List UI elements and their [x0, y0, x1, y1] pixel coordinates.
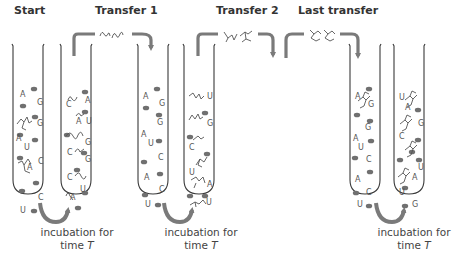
nucleotide-letter: U: [357, 200, 363, 209]
caption-line-1: incubation for: [359, 226, 456, 239]
nucleotide-letter: G: [368, 100, 374, 109]
nucleotide-letter: C: [67, 173, 73, 182]
incubation-arrow-3: [376, 203, 404, 222]
nucleotide-letter: G: [412, 200, 418, 209]
caption-time-variable: T: [211, 239, 217, 251]
transfer-1-molecules: [100, 32, 123, 38]
caption-line-2: time T: [359, 239, 456, 252]
nucleotide-letter: A: [70, 193, 76, 202]
nucleotide-letter: U: [399, 188, 405, 197]
nucleotide-letter: G: [85, 138, 91, 147]
nucleotide-letter: G: [37, 119, 43, 128]
nucleotide-letter: C: [189, 143, 195, 152]
nucleotide-letter: U: [80, 185, 86, 194]
nucleotide-letter: C: [366, 155, 372, 164]
nucleotide-letter: A: [353, 134, 359, 143]
last-transfer-arrow: [286, 34, 358, 58]
nucleotide-letter: C: [67, 148, 73, 157]
nucleotide-letter: G: [37, 98, 43, 107]
incubation-caption-2: incubation for time T: [146, 226, 256, 252]
incubation-caption-3: incubation for time T: [359, 226, 456, 252]
test-tube-5: [349, 44, 381, 194]
nucleotide-letter: A: [143, 92, 149, 101]
caption-line-1: incubation for: [146, 226, 256, 239]
nucleotide-letter: C: [366, 188, 372, 197]
caption-time-text: time: [397, 239, 424, 251]
nucleotide-letter: G: [85, 155, 91, 164]
caption-time-text: time: [60, 239, 87, 251]
incubation-arrow-2: [164, 203, 192, 222]
nucleotide-letter: A: [405, 103, 411, 112]
transfer-2-molecules: [224, 31, 252, 42]
nucleotide-letter: G: [159, 99, 165, 108]
nucleotide-letter: U: [24, 143, 30, 152]
nucleotide-letter: A: [16, 134, 22, 143]
nucleotide-letter: C: [38, 157, 44, 166]
nucleotide-letter: A: [141, 130, 147, 139]
nucleotide-letter: A: [412, 173, 418, 182]
nucleotide-letter: G: [365, 123, 371, 132]
nucleotide-letter: A: [85, 96, 91, 105]
nucleotide-letter: C: [399, 132, 405, 141]
nucleotide-letter: A: [20, 90, 26, 99]
rna-molecules: [17, 91, 417, 207]
nucleotide-letter: U: [145, 200, 151, 209]
caption-line-2: time T: [146, 239, 256, 252]
nucleotide-letter: U: [358, 143, 364, 152]
test-tube-3: [137, 44, 169, 194]
nucleotide-letter: U: [399, 93, 405, 102]
incubation-caption-1: incubation for time T: [22, 226, 132, 252]
nucleotide-letter: C: [159, 185, 165, 194]
nucleotide-letter: A: [144, 173, 150, 182]
caption-line-1: incubation for: [22, 226, 132, 239]
nucleotide-letter: U: [20, 206, 26, 215]
last-transfer-molecules: [310, 30, 335, 41]
nucleotide-letter: C: [66, 100, 72, 109]
nucleotide-letter: A: [355, 175, 361, 184]
nucleotide-letter: U: [189, 168, 195, 177]
nucleotide-letter: U: [418, 163, 424, 172]
nucleotide-letter: A: [207, 180, 213, 189]
caption-time-variable: T: [87, 239, 93, 251]
caption-line-2: time T: [22, 239, 132, 252]
nucleotide-letter: U: [148, 139, 154, 148]
incubation-arrow-1: [40, 203, 68, 222]
caption-time-text: time: [184, 239, 211, 251]
nucleotide-letter: A: [27, 163, 33, 172]
nucleotide-letter: G: [157, 118, 163, 127]
caption-time-variable: T: [424, 239, 430, 251]
nucleotide-letter: A: [76, 117, 82, 126]
nucleotide-letter: A: [355, 92, 361, 101]
nucleotide-letter: U: [207, 92, 213, 101]
nucleotide-letter: U: [86, 117, 92, 126]
nucleotide-letter: G: [418, 119, 424, 128]
nucleotide-letters: AGGAUCACUCAAUGCGCUAAGGAUCACUUGCUAUAGGAUC…: [16, 90, 424, 215]
nucleotide-letter: C: [38, 193, 44, 202]
nucleotide-letter: C: [158, 153, 164, 162]
nucleotide-letter: G: [207, 119, 213, 128]
nucleotide-letter: U: [206, 198, 212, 207]
